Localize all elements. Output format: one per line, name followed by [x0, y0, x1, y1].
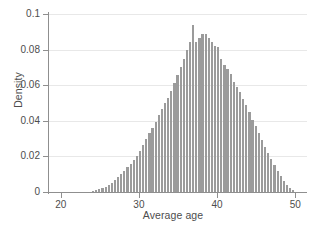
y-axis-tick	[43, 156, 48, 157]
histogram-bar	[151, 128, 153, 192]
histogram-bar	[258, 133, 260, 192]
histogram-bar	[198, 38, 200, 192]
histogram-bar	[176, 75, 178, 192]
histogram-bar	[108, 185, 110, 192]
histogram-bar	[245, 105, 247, 192]
x-axis-line	[49, 192, 307, 193]
y-axis-tick	[43, 192, 48, 193]
x-axis-tick-label: 30	[124, 199, 154, 210]
x-axis-tick	[295, 193, 296, 198]
histogram-bar	[183, 59, 185, 192]
histogram-bar	[173, 83, 175, 192]
histogram-chart: Density Average age 00.020.040.060.080.1…	[0, 0, 315, 228]
histogram-bar	[208, 38, 210, 192]
y-axis-tick-label: 0	[34, 186, 40, 197]
y-axis-tick-label: 0.06	[21, 79, 40, 90]
histogram-bar	[273, 165, 275, 192]
histogram-bar	[114, 180, 116, 192]
histogram-bar	[223, 65, 225, 192]
histogram-bar	[286, 185, 288, 192]
histogram-bar	[170, 91, 172, 192]
histogram-bar	[236, 87, 238, 192]
y-axis-tick-label: 0.08	[21, 44, 40, 55]
y-axis-tick-label: 0.1	[26, 8, 40, 19]
histogram-bar	[280, 176, 282, 192]
y-axis-line	[48, 12, 49, 194]
histogram-bar	[192, 25, 194, 192]
histogram-bar	[139, 151, 141, 192]
histogram-bar	[201, 34, 203, 192]
plot-area	[49, 14, 307, 192]
gridline	[49, 50, 307, 51]
histogram-bar	[230, 74, 232, 192]
y-axis-tick	[43, 121, 48, 122]
histogram-bar	[226, 69, 228, 192]
histogram-bar	[164, 103, 166, 192]
histogram-bar	[120, 174, 122, 192]
histogram-bar	[270, 159, 272, 192]
histogram-bar	[180, 67, 182, 192]
x-axis-tick	[61, 193, 62, 198]
y-axis-tick	[43, 50, 48, 51]
histogram-bar	[130, 164, 132, 192]
histogram-bar	[283, 181, 285, 192]
histogram-bar	[267, 153, 269, 192]
histogram-bar	[220, 59, 222, 192]
y-axis-tick	[43, 14, 48, 15]
histogram-bar	[133, 160, 135, 192]
histogram-bar	[277, 171, 279, 192]
histogram-bar	[123, 171, 125, 192]
y-axis-tick-label: 0.04	[21, 115, 40, 126]
histogram-bar	[155, 122, 157, 192]
histogram-bar	[214, 46, 216, 192]
histogram-bar	[161, 109, 163, 192]
histogram-bar	[205, 34, 207, 192]
histogram-bar	[167, 98, 169, 192]
x-axis-tick-label: 50	[280, 199, 310, 210]
histogram-bar	[264, 147, 266, 192]
histogram-bar	[217, 47, 219, 192]
histogram-bar	[195, 42, 197, 192]
histogram-bar	[111, 183, 113, 192]
histogram-bar	[136, 156, 138, 192]
histogram-bar	[248, 112, 250, 192]
x-axis-title: Average age	[48, 209, 298, 221]
histogram-bar	[251, 120, 253, 192]
histogram-bar	[142, 145, 144, 192]
histogram-bar	[158, 115, 160, 192]
histogram-bar	[261, 140, 263, 192]
histogram-bar	[211, 42, 213, 192]
histogram-bar	[189, 42, 191, 192]
histogram-bar	[239, 92, 241, 192]
histogram-bar	[145, 139, 147, 192]
histogram-bar	[255, 126, 257, 192]
histogram-bar	[233, 82, 235, 192]
x-axis-tick	[217, 193, 218, 198]
x-axis-tick-label: 40	[202, 199, 232, 210]
gridline	[49, 14, 307, 15]
x-axis-tick-label: 20	[46, 199, 76, 210]
y-axis-tick-label: 0.02	[21, 150, 40, 161]
histogram-bar	[126, 167, 128, 192]
histogram-bar	[242, 99, 244, 192]
x-axis-tick	[139, 193, 140, 198]
histogram-bar	[117, 177, 119, 192]
histogram-bar	[148, 133, 150, 192]
histogram-bar	[186, 50, 188, 192]
y-axis-tick	[43, 85, 48, 86]
